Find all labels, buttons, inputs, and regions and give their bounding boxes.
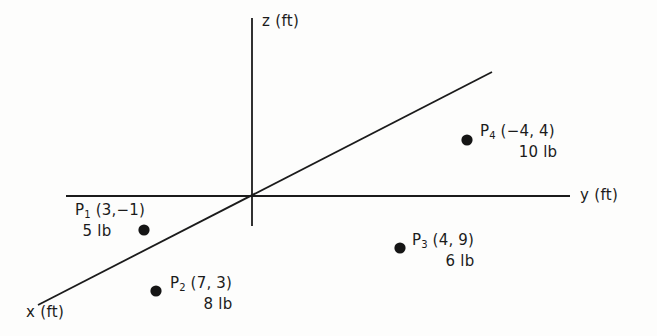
point-label-p1-subscript: 1	[84, 209, 90, 220]
point-label-p4: P4 (−4, 4) 10 lb	[480, 123, 610, 161]
point-label-p2-subscript: 2	[179, 282, 185, 293]
point-label-p3: P3 (4, 9) 6 lb	[412, 232, 522, 270]
point-marker-p2	[150, 285, 161, 296]
point-label-p2-load: 8 lb	[170, 296, 280, 313]
point-label-p1-coords: P1 (3,−1)	[45, 202, 145, 223]
point-label-p3-coords-text: (4, 9)	[433, 231, 475, 249]
point-label-p4-load: 10 lb	[480, 144, 610, 161]
point-label-p4-subscript: 4	[489, 130, 495, 141]
point-label-p1-load: 5 lb	[45, 223, 145, 240]
point-label-p3-load: 6 lb	[412, 253, 522, 270]
point-marker-p3	[394, 242, 405, 253]
point-label-p2-coords-text: (7, 3)	[191, 274, 233, 292]
point-label-p3-name: P	[412, 231, 421, 249]
point-label-p2-name: P	[170, 274, 179, 292]
point-label-p1-coords-text: (3,−1)	[96, 201, 145, 219]
x-axis-label: x (ft)	[26, 303, 64, 321]
point-marker-p4	[461, 134, 472, 145]
point-label-p1-name: P	[75, 201, 84, 219]
point-label-p4-coords-text: (−4, 4)	[501, 122, 555, 140]
z-axis-label: z (ft)	[262, 12, 299, 30]
point-label-p3-subscript: 3	[421, 239, 427, 250]
point-label-p4-coords: P4 (−4, 4)	[480, 123, 610, 144]
point-label-p3-coords: P3 (4, 9)	[412, 232, 522, 253]
coordinate-axes-figure: z (ft) y (ft) x (ft) P1 (3,−1) 5 lb P2 (…	[0, 0, 657, 336]
point-label-p2-coords: P2 (7, 3)	[170, 275, 280, 296]
point-label-p2: P2 (7, 3) 8 lb	[170, 275, 280, 313]
point-label-p1: P1 (3,−1) 5 lb	[45, 202, 145, 240]
point-label-p4-name: P	[480, 122, 489, 140]
y-axis-label: y (ft)	[580, 186, 618, 204]
x-axis-line	[38, 72, 492, 305]
axes-drawing	[0, 0, 657, 336]
